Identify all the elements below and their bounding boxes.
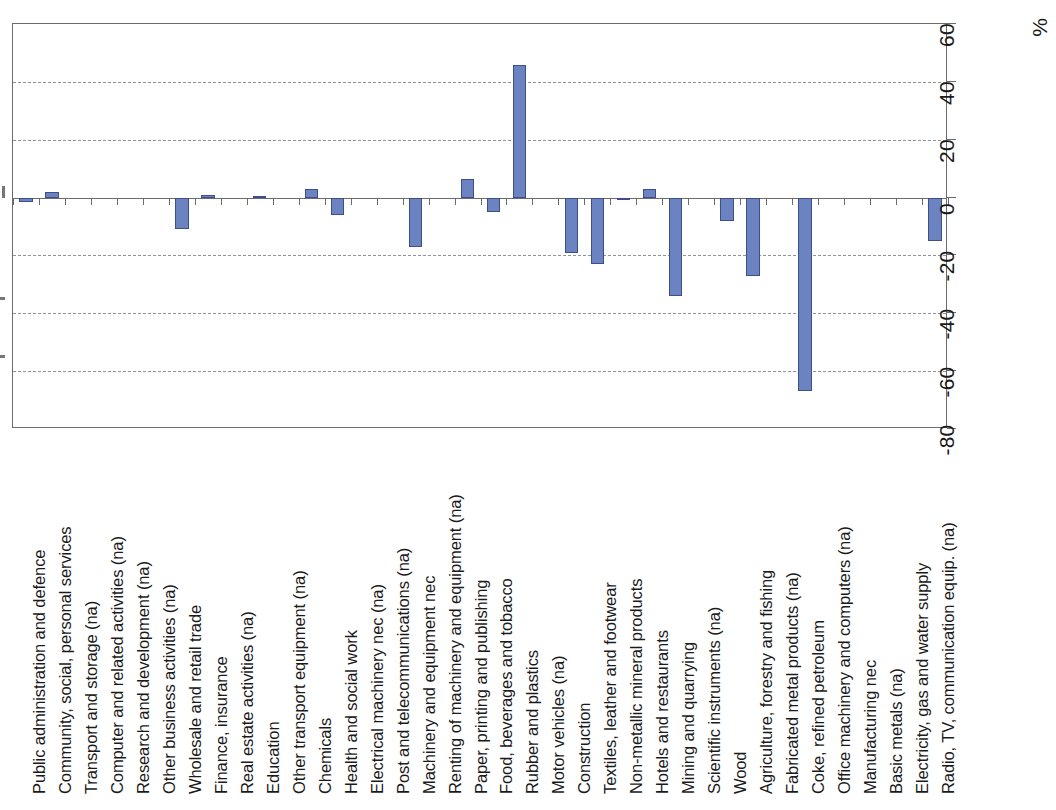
x-axis-tick [532, 198, 533, 205]
x-axis-tick [662, 198, 663, 205]
x-axis-tick [740, 198, 741, 205]
x-axis-label: Post and telecommunications (na) [395, 548, 412, 794]
y-axis-tick-label: -60 [935, 367, 959, 398]
y-axis-tick-label: -20 [935, 251, 959, 282]
x-axis-tick [117, 198, 118, 205]
scan-artifact [2, 186, 5, 198]
bar [331, 198, 345, 215]
bar [45, 192, 59, 198]
x-axis-tick [844, 198, 845, 205]
x-axis-tick [766, 198, 767, 205]
bar [461, 179, 475, 198]
x-axis-tick [13, 198, 14, 205]
y-axis-tick-label: 20 [935, 139, 959, 163]
x-axis-label: Computer and related activities (na) [109, 536, 126, 794]
x-axis-label: Textiles, leather and footwear [602, 582, 619, 794]
bar [409, 198, 423, 247]
x-axis-label: Wholesale and retail trade [187, 605, 204, 794]
x-axis-label: Machinery and equipment nec [421, 576, 438, 794]
y-axis-tick-label: -40 [935, 309, 959, 340]
bar [591, 198, 605, 265]
bar [746, 198, 760, 276]
x-axis-label: Community, social, personal services [57, 526, 74, 794]
x-axis-label: Electrical machinery nec (na) [369, 584, 386, 794]
bar [617, 198, 631, 201]
x-axis-category-labels: Public administration and defenceCommuni… [12, 432, 947, 802]
x-axis-tick [221, 198, 222, 205]
x-axis-tick [610, 198, 611, 205]
gridline [13, 140, 946, 141]
bar [565, 198, 579, 253]
x-axis-label: Research and development (na) [135, 561, 152, 794]
x-axis-label: Scientific instruments (na) [706, 607, 723, 794]
x-axis-label: Rubber and plastics [524, 650, 541, 794]
x-axis-label: Coke, refined petroleum [810, 620, 827, 794]
bar [798, 198, 812, 392]
bar [175, 198, 189, 230]
x-axis-tick [818, 198, 819, 205]
x-axis-tick [481, 198, 482, 205]
x-axis-tick [377, 198, 378, 205]
x-axis-label: Fabricated metal products (na) [784, 572, 801, 794]
x-axis-label: Hotels and restaurants [654, 630, 671, 794]
bar [487, 198, 501, 212]
x-axis-tick [429, 198, 430, 205]
x-axis-label: Finance, insurance [213, 656, 230, 794]
x-axis-label: Other business activities (na) [161, 584, 178, 794]
x-axis-tick [273, 198, 274, 205]
x-axis-label: Other transport equipment (na) [291, 570, 308, 794]
bar [305, 189, 319, 198]
x-axis-label: Food, beverages and tobacco [498, 578, 515, 794]
x-axis-label: Basic metals (na) [888, 668, 905, 794]
x-axis-label: Mining and quarrying [680, 642, 697, 794]
bar [19, 198, 33, 202]
x-axis-tick [39, 198, 40, 205]
x-axis-tick [91, 198, 92, 205]
scan-artifact [0, 297, 5, 300]
x-axis-label: Agriculture, forestry and fishing [758, 570, 775, 794]
plot-area [13, 24, 946, 427]
x-axis-tick [506, 198, 507, 205]
x-axis-label: Radio, TV, communication equip. (na) [940, 522, 957, 794]
x-axis-tick [558, 198, 559, 205]
x-axis-tick [351, 198, 352, 205]
x-axis-label: Electricity, gas and water supply [914, 563, 931, 794]
y-axis-tick-label: 60 [935, 23, 959, 47]
x-axis-label: Health and social work [343, 630, 360, 794]
y-axis-tick-label: 40 [935, 81, 959, 105]
x-axis-label: Real estate activities (na) [239, 611, 256, 794]
x-axis-tick [792, 198, 793, 205]
bar-chart-figure: 6040200-20-40-60-80 % Public administrat… [0, 0, 1056, 810]
y-axis: 6040200-20-40-60-80 [947, 23, 1037, 428]
x-axis-label: Paper, printing and publishing [473, 580, 490, 794]
gridline [13, 82, 946, 83]
x-axis-tick [896, 198, 897, 205]
bar [253, 196, 267, 199]
x-axis-label: Wood [732, 752, 749, 794]
x-axis-tick [247, 198, 248, 205]
y-axis-unit-label: % [1028, 18, 1052, 37]
x-axis-label: Non-metallic mineral products [628, 579, 645, 794]
x-axis-label: Chemicals [317, 718, 334, 794]
bar [669, 198, 683, 296]
x-axis-tick [714, 198, 715, 205]
x-axis-label: Motor vehicles (na) [550, 656, 567, 794]
x-axis-tick [65, 198, 66, 205]
plot-frame [12, 23, 947, 428]
x-axis-label: Manufacturing nec [862, 660, 879, 794]
x-axis-label: Renting of machinery and equipment (na) [447, 494, 464, 794]
x-axis-label: Education [265, 722, 282, 795]
bar [201, 195, 215, 198]
x-axis-tick [584, 198, 585, 205]
bar [643, 189, 657, 198]
scan-artifact [0, 355, 5, 358]
y-axis-tick [947, 197, 956, 198]
x-axis-tick [195, 198, 196, 205]
x-axis-tick [143, 198, 144, 205]
x-axis-tick [922, 198, 923, 205]
x-axis-tick [636, 198, 637, 205]
x-axis-tick [455, 198, 456, 205]
x-axis-label: Public administration and defence [31, 550, 48, 794]
x-axis-label: Transport and storage (na) [83, 601, 100, 794]
bar [720, 198, 734, 221]
